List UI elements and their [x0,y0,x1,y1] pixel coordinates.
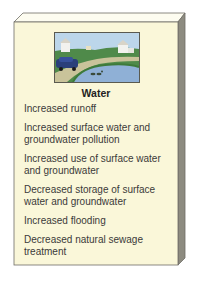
list-item: Decreased natural sewage treatment [24,234,176,259]
list-item: Increased use of surface water and groun… [24,153,176,178]
box-top-face [14,13,185,22]
box-side-face [178,13,185,265]
water-illustration [54,32,140,83]
list-item: Increased surface water and groundwater … [24,122,176,147]
list-item: Increased flooding [24,215,176,227]
list-item: Decreased storage of surface water and g… [24,184,176,209]
panel-title: Water [14,87,178,99]
list-item: Increased runoff [24,103,176,115]
effects-list: Increased runoff Increased surface water… [24,103,176,265]
suburban-pond-icon [55,33,139,82]
